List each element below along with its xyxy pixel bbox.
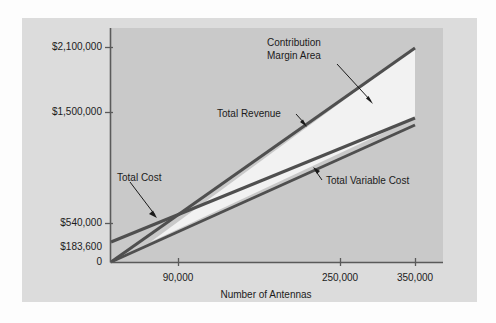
y-tick-label-1500000: $1,500,000 [6, 106, 102, 118]
annotation-total-cost: Total Cost [117, 172, 161, 184]
cvp-chart-figure: $2,100,000 $1,500,000 $540,000 $183,600 … [0, 0, 496, 323]
annotation-total-revenue: Total Revenue [217, 108, 281, 120]
annotation-total-variable-cost: Total Variable Cost [326, 175, 409, 187]
y-tick-label-183600: $183,600 [6, 241, 102, 253]
y-tick-label-540000: $540,000 [6, 217, 102, 229]
annotation-contribution-margin-line1: Contribution [267, 37, 321, 49]
annotation-contribution-margin-line2: Margin Area [267, 50, 321, 62]
x-tick-label-250000: 250,000 [300, 272, 380, 284]
total-cost-leader [130, 182, 155, 215]
total-variable-cost-line [111, 125, 415, 262]
x-tick-label-90000: 90,000 [138, 272, 218, 284]
x-tick-label-350000: 350,000 [375, 272, 455, 284]
x-axis-title: Number of Antennas [186, 289, 346, 301]
y-tick-label-0: 0 [6, 256, 102, 268]
y-tick-label-2100000: $2,100,000 [6, 41, 102, 53]
total-revenue-line [111, 48, 415, 262]
total-cost-arrowhead [149, 211, 157, 219]
